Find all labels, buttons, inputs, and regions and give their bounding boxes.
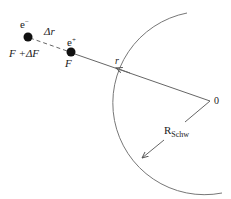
electron-label: e− — [20, 18, 29, 30]
schwarzschild-radius-line-lower — [142, 140, 164, 158]
electron-dot — [24, 33, 33, 42]
positron-label: e+ — [67, 36, 76, 48]
radial-label: r — [115, 55, 119, 66]
radial-line — [72, 53, 210, 101]
force-positron-label: F — [64, 57, 72, 69]
delta-r-label: Δr — [43, 25, 55, 37]
event-horizon-arc — [113, 13, 222, 195]
schwarzschild-diagram: e− Δr e+ F +ΔF F r 0 RSchw — [0, 0, 231, 199]
schwarzschild-radius-line-upper — [185, 101, 210, 122]
schwarzschild-radius-label: RSchw — [164, 124, 189, 139]
positron-dot — [67, 48, 76, 57]
force-electron-label: F +ΔF — [8, 47, 39, 59]
origin-label: 0 — [214, 95, 219, 106]
